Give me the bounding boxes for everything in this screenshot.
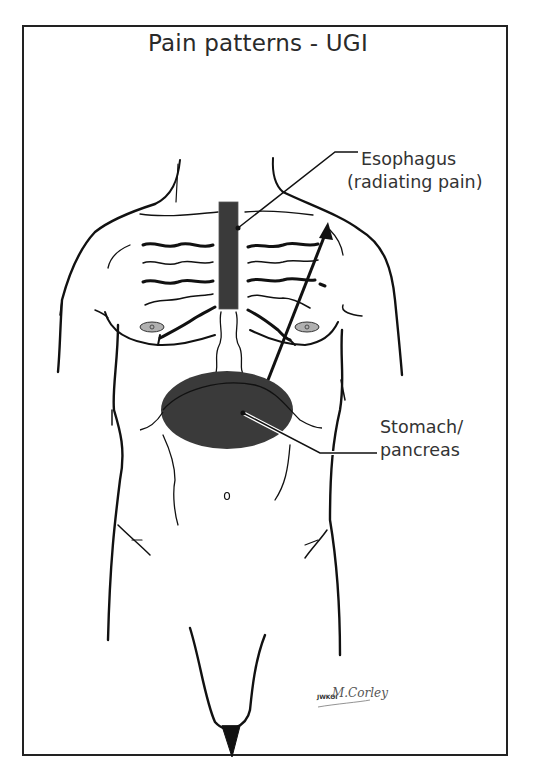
esophagus-label: Esophagus (radiating pain) (347, 148, 483, 194)
stomach-pancreas-label: Stomach/ pancreas (380, 416, 463, 462)
left-flank (108, 325, 122, 640)
left-shoulder-arm (58, 204, 155, 372)
esophagus-region (219, 202, 238, 309)
radiating-pain-arrow (268, 232, 326, 380)
left-nipple-icon (140, 322, 164, 332)
groin-outline (190, 628, 265, 729)
right-flank (330, 330, 342, 655)
diagram-title: Pain patterns - UGI (148, 30, 368, 56)
neck-right-outline (273, 158, 283, 192)
right-nipple-icon (295, 322, 319, 332)
collarbone-left (140, 212, 218, 216)
esophagus-label-line2: (radiating pain) (347, 171, 483, 194)
navel-icon (225, 493, 230, 500)
stomach-label-line2: pancreas (380, 439, 463, 462)
pectoral-right (250, 322, 338, 345)
artist-signature: M.Corley (332, 686, 388, 700)
stomach-label-line1: Stomach/ (380, 416, 463, 439)
esophagus-label-line1: Esophagus (347, 148, 483, 171)
torso-illustration (0, 0, 540, 779)
